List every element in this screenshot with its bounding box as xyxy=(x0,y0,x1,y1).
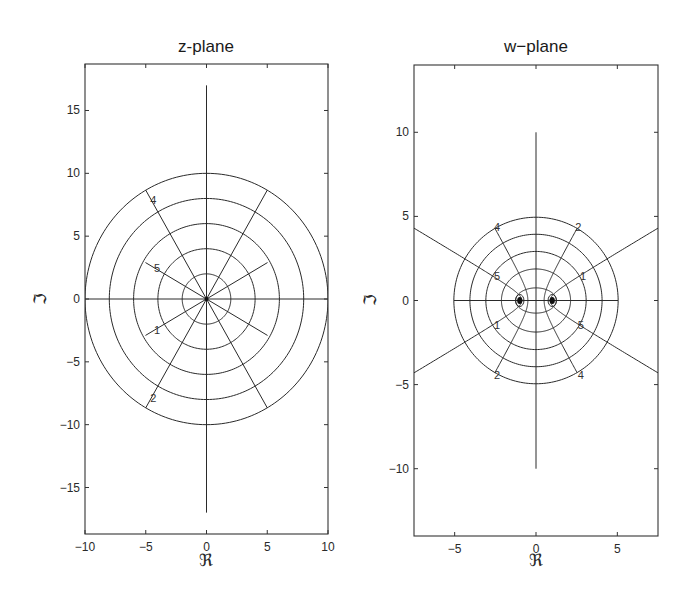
hyperbola-label: 2 xyxy=(494,369,500,381)
w-plane-panel: −505−10−5051012451245 xyxy=(389,65,678,556)
ray-label: 5 xyxy=(154,262,160,274)
hyperbola-label: 4 xyxy=(578,369,584,381)
z-plane-panel: −10−50510−15−10−50510154512 xyxy=(60,64,335,554)
hyperbola-150 xyxy=(394,216,522,300)
y-tick-label: 15 xyxy=(67,103,81,117)
hyperbola-label: 1 xyxy=(494,319,500,331)
w-plane-ylabel: ℑ xyxy=(360,294,380,306)
y-tick-label: 0 xyxy=(73,292,80,306)
y-tick-label: 10 xyxy=(396,125,410,139)
hyperbola-label: 2 xyxy=(575,221,581,233)
hyperbola-label: 4 xyxy=(494,221,500,233)
focus-marker xyxy=(517,297,522,304)
y-tick-label: −5 xyxy=(395,378,409,392)
ray-120 xyxy=(146,190,207,299)
w-plane-title: w−plane xyxy=(503,37,568,56)
x-tick-label: −5 xyxy=(139,540,153,554)
w-plane-plot-area xyxy=(394,132,678,468)
y-tick-label: 10 xyxy=(67,166,81,180)
z-plane-ylabel: ℑ xyxy=(30,293,50,305)
figure: −10−50510−15−10−50510154512 −505−10−5051… xyxy=(0,0,690,603)
z-plane-title: z-plane xyxy=(178,37,234,56)
x-tick-label: 10 xyxy=(321,540,335,554)
ray-label: 2 xyxy=(150,392,156,404)
y-tick-label: 0 xyxy=(402,294,409,308)
y-tick-label: 5 xyxy=(73,229,80,243)
w-plane-xlabel: ℜ xyxy=(529,550,543,570)
x-tick-label: 5 xyxy=(614,542,621,556)
x-tick-label: −10 xyxy=(75,540,96,554)
y-tick-label: −5 xyxy=(66,355,80,369)
hyperbola-label: 1 xyxy=(580,270,586,282)
x-tick-label: −5 xyxy=(448,542,462,556)
origin-marker xyxy=(205,297,209,301)
ray-300 xyxy=(207,299,268,408)
ray-label: 4 xyxy=(150,194,156,206)
z-plane-plot-area xyxy=(85,85,328,512)
ray-label: 1 xyxy=(154,324,160,336)
focus-marker xyxy=(550,297,555,304)
z-plane-xlabel: ℜ xyxy=(199,550,213,570)
ray-330 xyxy=(207,299,268,335)
ray-60 xyxy=(207,190,268,299)
x-tick-label: 5 xyxy=(264,540,271,554)
y-tick-label: 5 xyxy=(402,209,409,223)
hyperbola-210 xyxy=(394,301,522,385)
hyperbola-30 xyxy=(550,216,678,300)
y-tick-label: −10 xyxy=(389,462,410,476)
hyperbola-label: 5 xyxy=(578,319,584,331)
ray-30 xyxy=(207,263,268,299)
y-tick-label: −10 xyxy=(60,418,81,432)
hyperbola-330 xyxy=(550,301,678,385)
y-tick-label: −15 xyxy=(60,481,81,495)
hyperbola-label: 5 xyxy=(494,270,500,282)
